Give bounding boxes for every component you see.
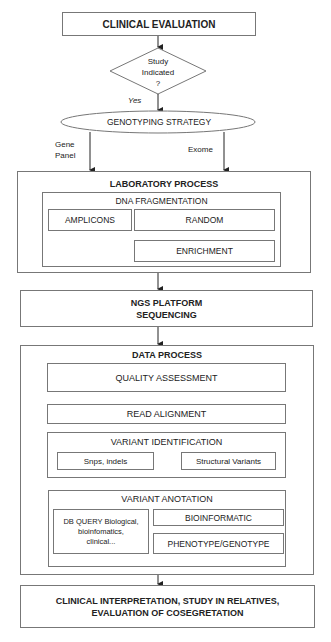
gene-panel-label: Gene Panel: [55, 139, 75, 161]
read-alignment-box: READ ALIGNMENT: [47, 404, 286, 424]
structural-variants-box: Structural Variants: [181, 452, 276, 470]
bioinformatic-box: BIOINFORMATIC: [153, 509, 284, 526]
ngs-sequencing-box: NGS PLATFORM SEQUENCING: [20, 290, 313, 327]
variant-annotation-title: VARIANT ANOTATION: [121, 494, 212, 504]
laboratory-process-title: LABORATORY PROCESS: [110, 179, 219, 189]
snps-indels-box: Snps, indels: [57, 452, 154, 470]
clinical-interpretation-box: CLINICAL INTERPRETATION, STUDY IN RELATI…: [20, 585, 315, 628]
random-box: RANDOM: [134, 209, 275, 231]
decision-diamond-text: Study Indicated ?: [128, 56, 188, 89]
variant-identification-title: VARIANT IDENTIFICATION: [111, 437, 223, 447]
genotyping-strategy-label: GENOTYPING STRATEGY: [62, 117, 256, 127]
dna-fragmentation-title: DNA FRAGMENTATION: [115, 196, 207, 206]
exome-label: Exome: [188, 145, 213, 154]
clinical-evaluation-label: CLINICAL EVALUATION: [103, 19, 216, 30]
clinical-evaluation-box: CLINICAL EVALUATION: [62, 12, 256, 36]
enrichment-box: ENRICHMENT: [134, 240, 275, 262]
phenotype-genotype-box: PHENOTYPE/GENOTYPE: [153, 533, 284, 554]
db-query-box: DB QUERY Biological, bioinfomatics, clin…: [53, 509, 149, 554]
yes-label: Yes: [128, 96, 141, 105]
data-process-title: DATA PROCESS: [132, 350, 202, 360]
quality-assessment-box: QUALITY ASSESSMENT: [47, 363, 286, 392]
amplicons-box: AMPLICONS: [48, 209, 132, 231]
